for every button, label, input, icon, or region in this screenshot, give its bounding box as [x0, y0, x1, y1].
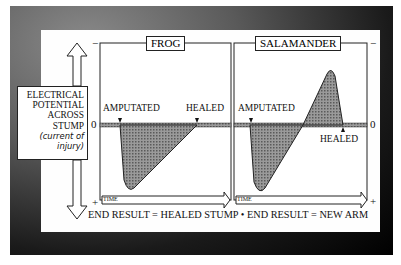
salamander-amputated-label: AMPUTATED [238, 103, 295, 113]
frog-amputated-label: AMPUTATED [103, 103, 160, 113]
axis-minus-right: − [370, 37, 376, 49]
frog-time-label: TIME [103, 196, 118, 202]
axis-zero-right: 0 [370, 118, 376, 130]
axis-minus-left: − [92, 37, 98, 49]
salamander-healed-label: HEALED [320, 134, 358, 144]
salamander-title: SALAMANDER [255, 36, 341, 51]
footer-result: END RESULT = HEALED STUMP • END RESULT =… [88, 209, 368, 220]
axis-plus-right: + [370, 195, 376, 207]
salamander-time-label: TIME [237, 196, 252, 202]
frog-title: FROG [146, 36, 185, 51]
frog-healed-label: HEALED [186, 103, 224, 113]
label-subline: injury) [18, 141, 84, 151]
label-line: STUMP [18, 121, 84, 131]
label-line: ELECTRICAL [18, 90, 84, 100]
label-line: ACROSS [18, 110, 84, 120]
y-axis-label: ELECTRICAL POTENTIAL ACROSS STUMP (curre… [17, 86, 88, 160]
axis-zero-left: 0 [91, 118, 97, 130]
axis-plus-left: + [92, 196, 98, 208]
label-line: POTENTIAL [18, 100, 84, 110]
label-subline: (current of [18, 131, 84, 141]
diagram-stage: ELECTRICAL POTENTIAL ACROSS STUMP (curre… [0, 0, 401, 265]
